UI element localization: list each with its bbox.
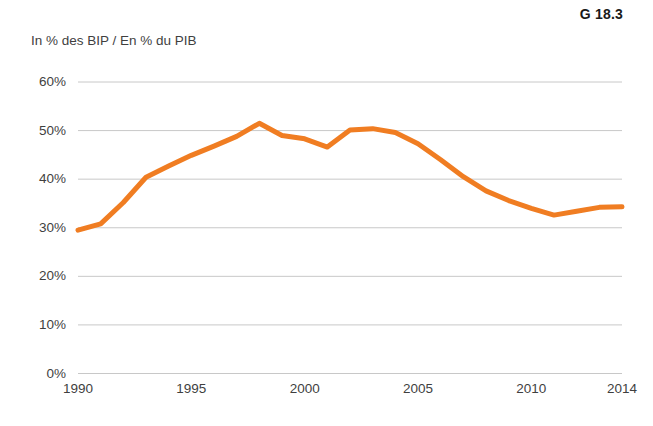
- line-chart-svg: [0, 0, 653, 426]
- x-axis-tick-label: 1990: [63, 382, 93, 396]
- chart-plot-area: 0%10%20%30%40%50%60% 1990199520002005201…: [0, 0, 653, 426]
- data-series-line: [78, 123, 622, 230]
- y-axis-tick-label: 20%: [4, 270, 66, 284]
- y-axis-tick-label: 50%: [4, 124, 66, 138]
- y-axis-tick-label: 0%: [4, 367, 66, 381]
- y-axis-tick-label: 10%: [4, 318, 66, 332]
- y-axis-tick-label: 30%: [4, 221, 66, 235]
- y-axis-tick-label: 60%: [4, 75, 66, 89]
- x-axis-tick-label: 2005: [403, 382, 433, 396]
- x-axis-tick-label: 2010: [516, 382, 546, 396]
- y-axis-tick-label: 40%: [4, 172, 66, 186]
- x-axis-tick-label: 2014: [607, 382, 637, 396]
- gridlines-group: [78, 82, 622, 374]
- x-axis-tick-label: 1995: [176, 382, 206, 396]
- x-axis-tick-label: 2000: [290, 382, 320, 396]
